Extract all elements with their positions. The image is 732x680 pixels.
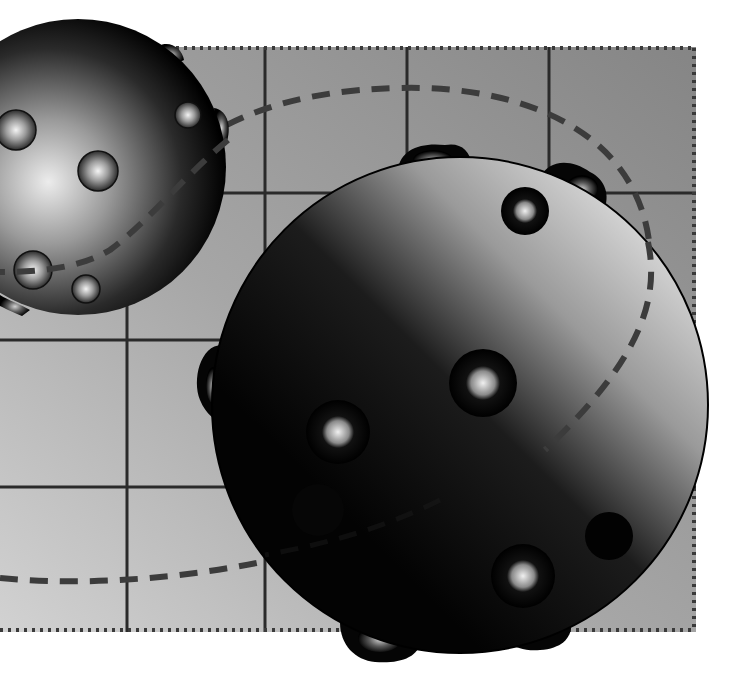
studded-spheres-illustration [0,0,732,680]
